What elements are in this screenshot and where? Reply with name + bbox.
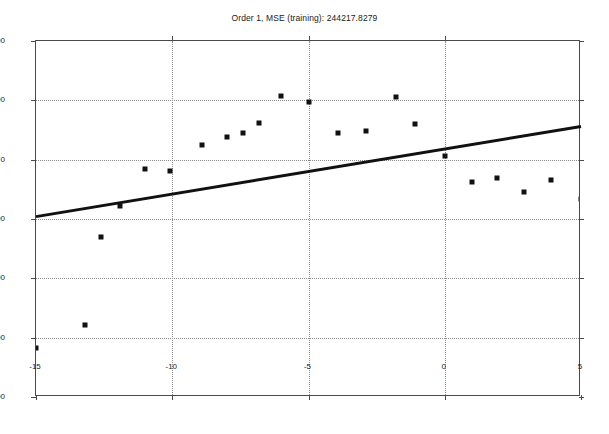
x-axis-tick-top <box>445 36 446 41</box>
y-axis-tick-label: -1500 <box>0 332 5 341</box>
y-axis-tick-right <box>579 219 584 220</box>
y-axis-tick <box>31 338 36 339</box>
x-axis-tick-label: -15 <box>29 362 41 371</box>
x-axis-tick-label: -10 <box>165 362 177 371</box>
fit-line-layer <box>36 41 581 397</box>
y-axis-tick-right <box>579 41 584 42</box>
y-axis-tick-label: -2000 <box>0 392 5 401</box>
y-axis-tick-label: 500 <box>0 95 5 104</box>
x-axis-tick <box>581 395 582 400</box>
regression-fit-line <box>36 126 581 216</box>
chart-title: Order 1, MSE (training): 244217.8279 <box>0 13 609 23</box>
y-axis-tick-right <box>579 278 584 279</box>
y-axis-tick-label: 0 <box>1 154 5 163</box>
y-axis-tick-label: -500 <box>0 214 5 223</box>
y-axis-tick <box>31 41 36 42</box>
x-axis-tick-label: -5 <box>304 362 311 371</box>
y-axis-tick-label: -1000 <box>0 273 5 282</box>
y-axis-tick <box>31 278 36 279</box>
plot-axes <box>35 40 580 396</box>
x-axis-tick-top <box>309 36 310 41</box>
y-axis-tick <box>31 219 36 220</box>
x-axis-tick-label: 0 <box>442 362 446 371</box>
x-axis-tick <box>172 395 173 400</box>
y-axis-tick <box>31 160 36 161</box>
y-axis-tick <box>31 100 36 101</box>
y-axis-tick-label: 1000 <box>0 36 5 45</box>
figure-canvas: Order 1, MSE (training): 244217.8279 -20… <box>0 0 609 434</box>
x-axis-tick <box>36 395 37 400</box>
x-axis-tick-top <box>172 36 173 41</box>
y-axis-tick-right <box>579 100 584 101</box>
x-axis-tick <box>445 395 446 400</box>
x-axis-tick-label: 5 <box>578 362 582 371</box>
x-axis-tick <box>309 395 310 400</box>
y-axis-tick-right <box>579 160 584 161</box>
y-axis-tick-right <box>579 338 584 339</box>
